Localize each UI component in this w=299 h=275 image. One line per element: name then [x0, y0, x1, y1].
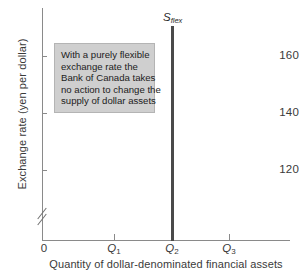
y-tick-mark-160 [42, 56, 47, 57]
x-tick-label-zero-text: 0 [41, 242, 47, 254]
x-tick-label-q3-text: Q [222, 242, 231, 254]
x-axis-line [42, 240, 290, 241]
x-tick-label-q1: Q1 [107, 242, 120, 254]
y-tick-label-140: 140 [265, 106, 299, 118]
annotation-line: supply of dollar assets [61, 95, 149, 107]
supply-curve-label-text: S [163, 11, 171, 23]
x-tick-label-q3: Q3 [222, 242, 235, 254]
x-tick-mark-q3 [229, 234, 230, 240]
x-tick-label-q2-sub: 2 [174, 247, 178, 256]
y-tick-mark-140 [42, 113, 47, 114]
y-tick-mark-120 [42, 170, 47, 171]
x-tick-label-q2-text: Q [165, 242, 174, 254]
annotation-box: With a purely flexible exchange rate the… [54, 43, 155, 113]
y-axis-break-icon [34, 206, 51, 226]
x-tick-label-q1-text: Q [107, 242, 116, 254]
annotation-line: Bank of Canada takes [61, 72, 149, 84]
supply-curve-label-sub: flex [171, 16, 183, 25]
supply-curve-label: Sflex [163, 11, 182, 23]
x-axis-title: Quantity of dollar-denominated financial… [42, 258, 290, 270]
x-tick-label-q3-sub: 3 [231, 247, 235, 256]
y-tick-label-160: 160 [265, 49, 299, 61]
annotation-line: With a purely flexible [61, 49, 149, 61]
x-tick-mark-q1 [114, 234, 115, 240]
x-tick-label-zero: 0 [41, 242, 47, 254]
annotation-line: exchange rate the [61, 61, 149, 73]
x-tick-label-q1-sub: 1 [116, 247, 120, 256]
y-tick-label-120: 120 [265, 163, 299, 175]
y-axis-title: Exchange rate (yen per dollar) [16, 29, 28, 199]
annotation-line: no action to change the [61, 84, 149, 96]
supply-curve-sflex [171, 26, 174, 241]
x-tick-label-q2: Q2 [165, 242, 178, 254]
exchange-rate-supply-chart: 160 140 120 Exchange rate (yen per dolla… [0, 0, 299, 275]
